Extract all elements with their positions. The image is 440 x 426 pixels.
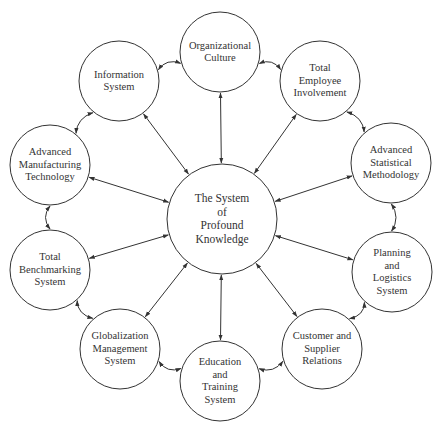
nodes-layer: [10, 12, 432, 421]
spoke-arrow-org-culture: [220, 93, 221, 163]
ring-arrow-employee-involvement-statistical-methodology: [347, 112, 364, 132]
profound-knowledge-diagram: The SystemofProfoundKnowledgeOrganizatio…: [0, 0, 440, 426]
node-education-training: [180, 341, 260, 421]
spoke-arrow-education-training: [221, 275, 222, 340]
ring-arrow-manufacturing-technology-information-system: [76, 113, 93, 134]
spoke-arrow-manufacturing-technology: [89, 177, 168, 202]
node-employee-involvement: [280, 41, 360, 121]
ring-arrow-customer-supplier-education-training: [259, 361, 283, 370]
spoke-arrow-planning-logistics: [275, 236, 352, 260]
ring-arrow-globalization-management-benchmarking: [77, 301, 93, 319]
node-org-culture: [180, 12, 260, 92]
node-information-system: [79, 41, 159, 121]
node-planning-logistics: [352, 232, 432, 312]
node-statistical-methodology: [351, 123, 431, 203]
node-manufacturing-technology: [10, 125, 90, 205]
spoke-arrow-statistical-methodology: [275, 176, 352, 201]
diagram-canvas: [0, 0, 440, 426]
spoke-arrow-benchmarking: [89, 235, 168, 258]
center-node: [167, 164, 277, 274]
ring-arrow-information-system-org-culture: [158, 62, 180, 70]
spoke-arrow-information-system: [144, 114, 189, 174]
ring-arrow-statistical-methodology-planning-logistics: [391, 204, 396, 231]
node-customer-supplier: [282, 309, 362, 389]
node-benchmarking: [10, 230, 90, 310]
spoke-arrow-globalization-management: [145, 263, 187, 317]
ring-arrow-benchmarking-manufacturing-technology: [46, 206, 50, 229]
ring-arrow-planning-logistics-customer-supplier: [350, 302, 365, 318]
ring-arrow-org-culture-employee-involvement: [259, 62, 280, 70]
spoke-arrow-customer-supplier: [256, 263, 297, 316]
spoke-arrow-employee-involvement: [254, 114, 296, 173]
node-globalization-management: [80, 309, 160, 389]
ring-arrow-education-training-globalization-management: [159, 361, 181, 369]
